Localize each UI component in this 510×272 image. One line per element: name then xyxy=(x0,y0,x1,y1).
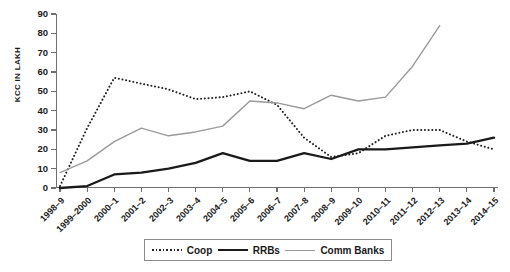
legend-label: Comm Banks xyxy=(320,245,384,256)
y-axis-tick-label: 40 xyxy=(37,106,48,116)
y-axis-tick-label: 70 xyxy=(37,48,48,58)
y-axis-tick-label: 50 xyxy=(37,86,48,96)
thick-line-swatch xyxy=(218,247,248,253)
legend-label: Coop xyxy=(187,245,213,256)
dotted-line-swatch xyxy=(152,247,182,253)
y-axis-title: KCC IN LAKH xyxy=(13,20,22,130)
y-axis-tick-label: 10 xyxy=(37,164,48,174)
series-line-coop xyxy=(60,78,494,186)
y-axis-tick-label: 30 xyxy=(37,125,48,135)
y-axis-tick-label: 20 xyxy=(37,144,48,154)
legend-item-coop[interactable]: Coop xyxy=(152,245,213,256)
y-axis-tick-label: 90 xyxy=(37,9,48,19)
y-axis-tick-label: 60 xyxy=(37,67,48,77)
legend-item-comm-banks[interactable]: Comm Banks xyxy=(285,245,384,256)
series-line-comm-banks xyxy=(60,26,440,173)
series-line-rrbs xyxy=(60,138,494,188)
kcc-line-chart: KCC IN LAKH 0102030405060708090 1998–919… xyxy=(0,0,510,272)
legend-item-rrbs[interactable]: RRBs xyxy=(218,245,280,256)
y-axis-tick-label: 0 xyxy=(43,183,48,193)
legend-label: RRBs xyxy=(253,245,280,256)
thin-gray-line-swatch xyxy=(285,247,315,253)
series-lines xyxy=(56,14,498,188)
y-axis-tick-label: 80 xyxy=(37,28,48,38)
chart-legend: CoopRRBsComm Banks xyxy=(144,239,392,261)
plot-area: 0102030405060708090 1998–91999–20002000–… xyxy=(56,14,498,188)
